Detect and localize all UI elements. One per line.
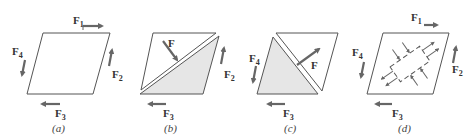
stress-element (371, 28, 449, 101)
label-f3: F3 (392, 107, 403, 122)
label-f4: F4 (352, 46, 363, 61)
label-f4: F4 (249, 52, 260, 67)
panel-c: F F4 F3 (c) (249, 33, 338, 135)
free-body-diagram: F1 F2 F3 F4 (a) F F2 F3 (b) F F4 F3 (c) (0, 0, 474, 140)
caption-c: (c) (284, 122, 297, 135)
label-f3: F3 (283, 107, 294, 122)
arrow-f2-icon (453, 47, 456, 63)
label-f2: F2 (224, 68, 235, 83)
label-f1: F1 (411, 11, 422, 26)
label-f: F (168, 37, 175, 49)
panel-d: F1 F2 F4 F3 (d) (352, 11, 463, 135)
label-f3: F3 (55, 107, 66, 122)
label-f: F (311, 59, 318, 71)
panel-a: F1 F2 F3 F4 (a) (12, 14, 123, 135)
lower-left-part-shaded (257, 37, 318, 94)
caption-a: (a) (52, 122, 65, 135)
caption-b: (b) (164, 122, 177, 135)
lower-right-part-shaded (140, 36, 219, 94)
arrow-f2-icon (109, 50, 112, 66)
panel-b: F F2 F3 (b) (140, 33, 235, 135)
arrow-f4-icon (22, 60, 25, 75)
caption-d: (d) (398, 122, 411, 135)
label-f4: F4 (12, 45, 23, 60)
arrow-f2-icon (221, 48, 224, 64)
label-f2: F2 (112, 68, 123, 83)
arrow-f4-icon (253, 66, 256, 82)
label-f2: F2 (452, 63, 463, 78)
label-f1: F1 (73, 14, 84, 29)
arrow-f4-icon (361, 62, 364, 77)
parallelogram-body (27, 33, 110, 94)
label-f3: F3 (163, 107, 174, 122)
